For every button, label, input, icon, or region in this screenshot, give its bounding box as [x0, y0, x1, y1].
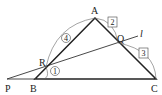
point-label-R: R	[39, 57, 46, 68]
line-label-l: l	[140, 28, 143, 39]
point-label-B: B	[30, 83, 37, 94]
point-label-C: C	[151, 83, 158, 94]
ratio-label-AR: 4	[64, 34, 68, 43]
ratio-label-RB: 1	[53, 67, 57, 76]
ratio-label-QC: 3	[142, 49, 146, 58]
geometry-diagram: 4 1 2 3 A B C P Q R l	[0, 0, 162, 95]
ratio-label-AQ: 2	[111, 18, 115, 27]
point-label-Q: Q	[117, 33, 125, 44]
point-label-P: P	[5, 83, 11, 94]
point-label-A: A	[91, 5, 99, 16]
